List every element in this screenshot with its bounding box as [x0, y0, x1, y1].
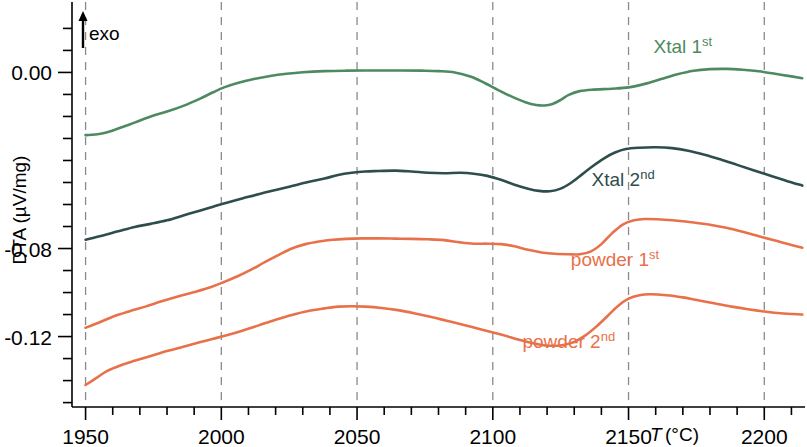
series-label-main: powder 2 [522, 331, 600, 352]
y-tick-label-0.00: 0.00 [11, 61, 52, 84]
series-label-main: Xtal 1 [653, 36, 702, 57]
y-axis-ticks [58, 28, 72, 402]
x-tick-label-2200: 2200 [741, 425, 788, 447]
chart-canvas: 0.00-0.08-0.12 195020002050210021502200 … [0, 0, 807, 447]
exo-annotation: exo [79, 11, 120, 48]
y-axis-title-text: DTA (µV/mg) [9, 156, 30, 265]
dta-chart-figure: 0.00-0.08-0.12 195020002050210021502200 … [0, 0, 807, 447]
series-line-powder-2nd [86, 294, 803, 385]
series-label-powder-1st: powder 1st [571, 247, 660, 270]
exo-arrow-head-icon [79, 11, 88, 21]
x-axis-title: T (°C) [650, 424, 699, 445]
series-label-superscript: st [702, 34, 713, 49]
series-line-xtal-2nd [86, 147, 803, 239]
series-label-xtal-1st: Xtal 1st [653, 34, 712, 57]
x-axis-title-symbol: T [650, 424, 663, 445]
y-axis-title: DTA (µV/mg) [9, 156, 30, 265]
series-label-xtal-2nd: Xtal 2nd [592, 167, 655, 190]
series-line-xtal-1st [86, 69, 803, 135]
y-tick-label--0.12: -0.12 [4, 326, 52, 349]
series-label-superscript: st [649, 247, 660, 262]
series-labels: Xtal 1stXtal 2ndpowder 1stpowder 2nd [522, 34, 712, 352]
exo-label-text: exo [89, 23, 120, 44]
series-label-superscript: nd [640, 167, 654, 182]
data-series-paths [86, 69, 803, 385]
series-label-powder-2nd: powder 2nd [522, 329, 615, 352]
series-label-main: powder 1 [571, 249, 649, 270]
series-line-powder-1st [86, 219, 803, 328]
x-tick-label-1950: 1950 [62, 425, 109, 447]
x-axis-ticks [86, 407, 792, 420]
x-tick-label-2150: 2150 [605, 425, 652, 447]
series-label-superscript: nd [601, 329, 615, 344]
x-tick-label-2100: 2100 [469, 425, 516, 447]
x-tick-label-2050: 2050 [334, 425, 381, 447]
x-axis-title-unit: (°C) [665, 424, 699, 445]
series-label-main: Xtal 2 [592, 169, 641, 190]
x-tick-label-2000: 2000 [198, 425, 245, 447]
